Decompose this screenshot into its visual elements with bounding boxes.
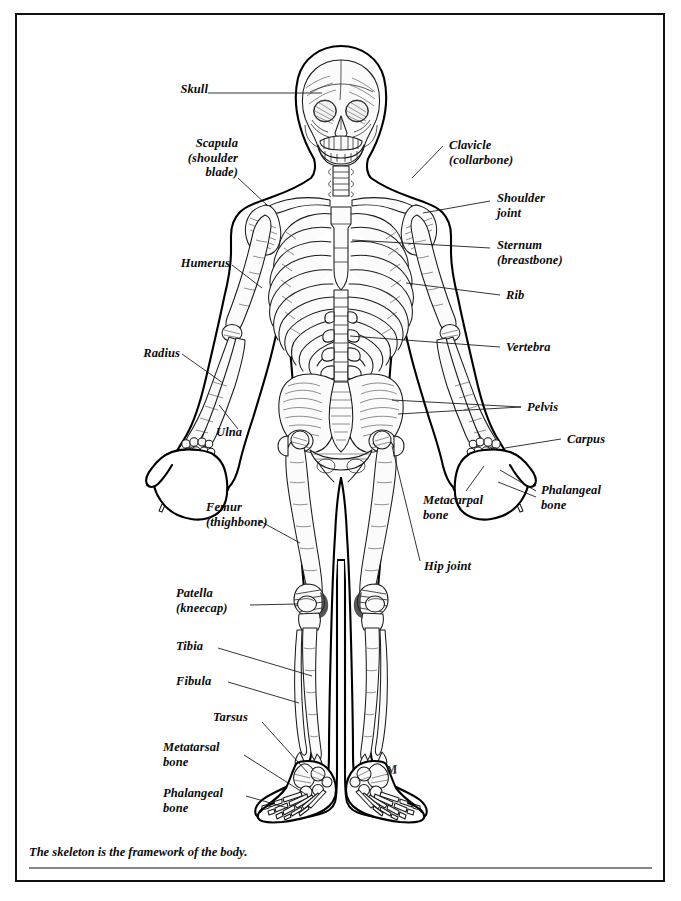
label-radius: Radius — [92, 346, 180, 361]
label-tibia: Tibia — [176, 639, 246, 654]
label-phalangeal-hand: Phalangeal bone — [541, 483, 651, 512]
leader-hip-joint — [392, 446, 420, 561]
figure-caption: The skeleton is the framework of the bod… — [29, 845, 247, 860]
skeleton-figure-page: Skull Scapula (shoulder blade) Humerus R… — [0, 0, 681, 901]
label-carpus: Carpus — [567, 432, 657, 447]
leader-carpus — [505, 439, 561, 448]
label-ulna: Ulna — [216, 425, 286, 440]
label-patella: Patella (kneecap) — [176, 586, 306, 615]
label-phalangeal-foot: Phalangeal bone — [163, 786, 263, 815]
leader-scapula — [238, 178, 268, 206]
label-femur: Femur (thighbone) — [206, 500, 336, 529]
skeleton-illustration — [0, 0, 681, 901]
label-vertebra: Vertebra — [506, 340, 616, 355]
label-sternum: Sternum (breastbone) — [497, 238, 647, 267]
label-humerus: Humerus — [100, 256, 230, 271]
label-metacarpal: Metacarpal bone — [423, 493, 533, 522]
label-scapula: Scapula (shoulder blade) — [108, 136, 238, 180]
label-metatarsal: Metatarsal bone — [163, 740, 263, 769]
label-pelvis: Pelvis — [527, 400, 617, 415]
label-rib: Rib — [506, 288, 566, 303]
label-tarsus: Tarsus — [213, 710, 293, 725]
label-clavicle: Clavicle (collarbone) — [449, 138, 589, 167]
artist-signature: M — [385, 761, 399, 778]
label-skull: Skull — [96, 82, 208, 97]
label-shoulder-joint: Shoulder joint — [497, 191, 607, 220]
label-hip-joint: Hip joint — [424, 559, 524, 574]
label-fibula: Fibula — [176, 674, 256, 689]
leader-clavicle — [412, 146, 443, 178]
